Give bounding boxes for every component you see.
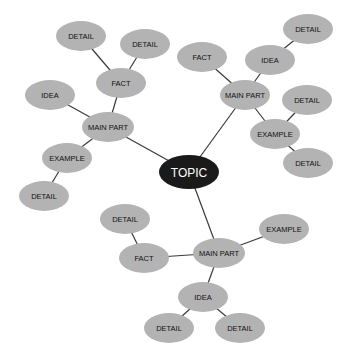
node-detail_b1: DETAIL — [144, 313, 194, 343]
node-label: DETAIL — [294, 96, 320, 105]
node-label: DETAIL — [156, 324, 182, 333]
node-label: DETAIL — [295, 25, 321, 34]
node-label: DETAIL — [132, 40, 158, 49]
node-label: IDEA — [194, 293, 212, 302]
node-label: DETAIL — [227, 324, 253, 333]
node-detail_ul2: DETAIL — [120, 29, 170, 59]
node-idea_ur: IDEA — [245, 45, 295, 75]
node-label: EXAMPLE — [257, 130, 292, 139]
node-label: IDEA — [261, 56, 279, 65]
node-label: MAIN PART — [88, 123, 129, 132]
node-label: EXAMPLE — [49, 154, 84, 163]
node-example_b: EXAMPLE — [259, 214, 309, 244]
node-example_ur: EXAMPLE — [250, 119, 300, 149]
node-idea_b: IDEA — [178, 282, 228, 312]
node-label: EXAMPLE — [266, 225, 301, 234]
node-label: DETAIL — [68, 32, 94, 41]
node-label: DETAIL — [295, 159, 321, 168]
node-detail_ul1: DETAIL — [56, 21, 106, 51]
node-topic: TOPIC — [159, 155, 219, 189]
node-example_ul: EXAMPLE — [42, 143, 92, 173]
node-label: IDEA — [41, 91, 59, 100]
node-fact_b: FACT — [119, 243, 169, 273]
node-fact_ur: FACT — [177, 42, 227, 72]
node-detail_ul3: DETAIL — [19, 181, 69, 211]
nodes-layer: TOPICMAIN PARTFACTDETAILDETAILIDEAEXAMPL… — [19, 14, 333, 343]
node-mp_ur: MAIN PART — [220, 80, 270, 110]
node-label: MAIN PART — [225, 91, 266, 100]
node-label: FACT — [134, 254, 154, 263]
node-label: FACT — [111, 79, 131, 88]
node-detail_ur1: DETAIL — [283, 14, 333, 44]
node-fact_ul: FACT — [96, 68, 146, 98]
node-label: TOPIC — [171, 166, 208, 180]
node-label: DETAIL — [112, 215, 138, 224]
mind-map-diagram: TOPICMAIN PARTFACTDETAILDETAILIDEAEXAMPL… — [0, 0, 351, 361]
node-mp_ul: MAIN PART — [82, 112, 134, 142]
node-label: MAIN PART — [199, 249, 240, 258]
node-mp_b: MAIN PART — [193, 238, 245, 268]
node-detail_bl: DETAIL — [100, 204, 150, 234]
node-detail_ur3: DETAIL — [283, 148, 333, 178]
node-label: FACT — [192, 53, 212, 62]
node-detail_ur2: DETAIL — [282, 85, 332, 115]
node-label: DETAIL — [31, 192, 57, 201]
node-detail_b2: DETAIL — [215, 313, 265, 343]
node-idea_ul: IDEA — [25, 80, 75, 110]
